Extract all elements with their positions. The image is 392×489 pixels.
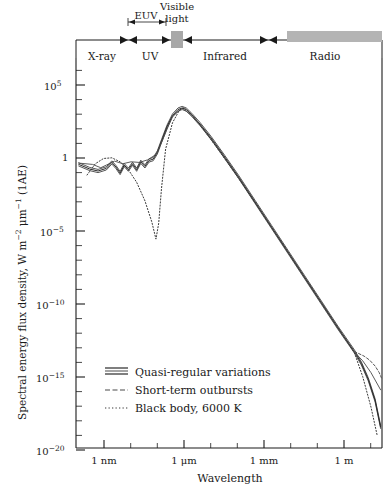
band-divider-arrow-infrared-end <box>260 36 268 44</box>
series-short-term-outbursts <box>79 108 381 390</box>
band-divider-arrow-infrared <box>184 36 192 44</box>
euv-arrow-left <box>129 20 135 25</box>
band-divider-arrow-uv-end <box>162 36 170 44</box>
series-line <box>79 108 381 427</box>
visible-light-swatch <box>171 31 183 48</box>
legend-swatch-quasi-regular <box>105 368 128 374</box>
band-divider-arrow-xray <box>120 36 128 44</box>
curve-layer <box>79 106 382 434</box>
euv-arrow-right <box>159 20 165 25</box>
series-line <box>79 108 381 390</box>
plot-svg <box>0 0 392 489</box>
spectrum-figure: EUV Visible light X-ray UV Infrared Radi… <box>0 0 392 489</box>
x-axis-ticks <box>104 440 371 448</box>
series-black-body-6000-k <box>87 108 377 435</box>
series-line <box>79 106 381 425</box>
band-strip <box>76 18 382 58</box>
band-divider-arrow-uv <box>129 36 137 44</box>
series-line <box>79 110 381 429</box>
series-quasi-regular-variations <box>79 106 381 428</box>
legend-swatches <box>105 368 128 408</box>
series-line <box>87 108 377 435</box>
radio-band-swatch <box>287 31 382 42</box>
band-divider-arrow-radio <box>269 36 277 44</box>
y-axis-ticks <box>76 70 85 450</box>
